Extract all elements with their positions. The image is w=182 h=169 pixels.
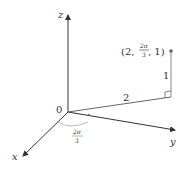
height-label: 1 bbox=[163, 70, 169, 81]
radius-line bbox=[68, 97, 171, 112]
angle-num: 2π bbox=[72, 128, 82, 135]
angle-dot bbox=[88, 114, 90, 116]
z-axis-label: z bbox=[57, 9, 64, 20]
y-axis bbox=[68, 112, 175, 130]
radius-label: 2 bbox=[123, 92, 129, 103]
x-axis bbox=[23, 112, 68, 156]
point-theta-den: 3 bbox=[142, 51, 146, 58]
y-axis-label: y bbox=[169, 136, 176, 147]
point-label: (2, 2π 3 , 1) bbox=[121, 42, 165, 58]
x-axis-label: x bbox=[12, 151, 18, 162]
cylindrical-diagram: z x y 0 2 1 (2, 2π 3 , 1) 2π 3 bbox=[0, 0, 182, 169]
origin-label: 0 bbox=[56, 104, 62, 115]
angle-den: 3 bbox=[75, 137, 79, 144]
point-label-open: (2, bbox=[121, 46, 134, 57]
angle-arc bbox=[58, 122, 88, 126]
point-label-close: , 1) bbox=[148, 46, 165, 57]
angle-label: 2π 3 bbox=[72, 128, 83, 144]
point-marker bbox=[169, 49, 173, 53]
